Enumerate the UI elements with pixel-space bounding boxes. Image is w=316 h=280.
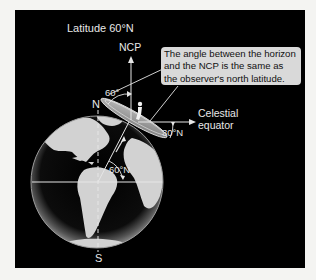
latitude-angle-label: 60°N: [109, 164, 130, 175]
south-pole-label: S: [95, 252, 102, 264]
diagram-title: Latitude 60°N: [67, 22, 134, 34]
equator-arc-arrowhead: [171, 122, 175, 126]
ncp-label: NCP: [119, 41, 141, 53]
callout-line-3: the observer's north latitude.: [164, 73, 298, 85]
callout-leader-2: [150, 86, 178, 121]
latitude-diagram: 60°N NCP 60° N S Celestial equator 30°N …: [0, 0, 316, 280]
celestial-equator-label-2: equator: [198, 119, 234, 131]
observer-head: [138, 102, 142, 106]
callout-line-2: and the NCP is the same as: [164, 60, 298, 72]
celestial-equator-arrowhead: [189, 119, 196, 125]
callout-leader-1: [110, 68, 165, 94]
celestial-equator-label-1: Celestial: [198, 107, 238, 119]
ncp-arrowhead: [128, 56, 134, 63]
equator-angle-label: 30°N: [162, 127, 183, 138]
north-pole-label: N: [92, 98, 100, 110]
callout-line-1: The angle between the horizon: [164, 48, 298, 60]
callout-box: The angle between the horizon and the NC…: [161, 47, 301, 85]
